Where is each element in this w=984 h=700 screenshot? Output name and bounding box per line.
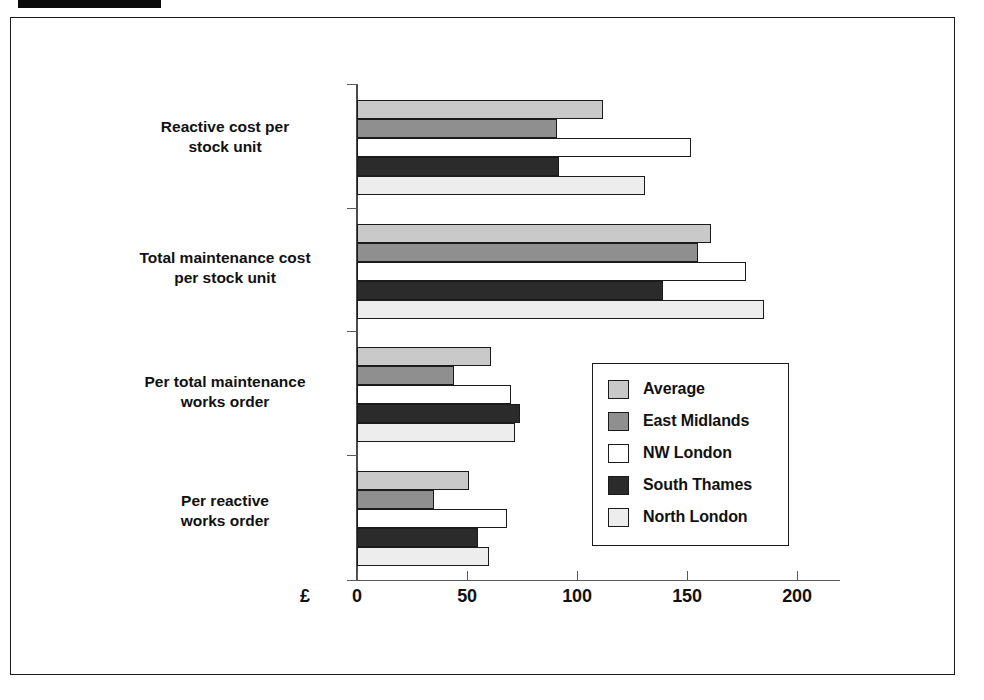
x-tick-label-150: 150	[657, 586, 717, 607]
bar-per-total-maintenance-works-order-average	[357, 347, 491, 366]
category-label-reactive-cost-per-stock-unit: Reactive cost per stock unit	[110, 117, 340, 157]
category-label-line: stock unit	[110, 137, 340, 157]
x-tick-label-200: 200	[767, 586, 827, 607]
y-axis-tick	[347, 331, 358, 332]
legend-label-nw-london: NW London	[643, 444, 732, 462]
x-tick-label-50: 50	[437, 586, 497, 607]
category-label-line: works order	[110, 392, 340, 412]
category-label-per-reactive-works-order: Per reactive works order	[110, 491, 340, 531]
category-label-total-maintenance-cost-per-stock-unit: Total maintenance cost per stock unit	[110, 248, 340, 288]
chart-legend: Average East Midlands NW London South Th…	[592, 363, 789, 546]
y-axis-tick	[347, 455, 358, 456]
legend-swatch-south-thames-icon	[608, 476, 629, 495]
category-label-per-total-maintenance-works-order: Per total maintenance works order	[110, 372, 340, 412]
bar-per-reactive-works-order-east-midlands	[357, 490, 434, 509]
x-axis-tick-200	[797, 571, 798, 581]
x-axis-tick-100	[577, 571, 578, 581]
bar-per-reactive-works-order-nw-london	[357, 509, 507, 528]
bar-per-reactive-works-order-south-thames	[357, 528, 478, 547]
legend-label-south-thames: South Thames	[643, 476, 752, 494]
y-axis-tick	[347, 84, 358, 85]
category-label-line: Total maintenance cost	[110, 248, 340, 268]
bar-reactive-cost-per-stock-unit-north-london	[357, 176, 645, 195]
bar-reactive-cost-per-stock-unit-east-midlands	[357, 119, 557, 138]
legend-swatch-average-icon	[608, 380, 629, 399]
bar-chart-plot-area: £ 0 50 100 150 200 Reactive cost per sto…	[0, 0, 984, 700]
bar-per-total-maintenance-works-order-north-london	[357, 423, 515, 442]
bar-total-maintenance-cost-per-stock-unit-south-thames	[357, 281, 663, 300]
bar-total-maintenance-cost-per-stock-unit-east-midlands	[357, 243, 698, 262]
bar-total-maintenance-cost-per-stock-unit-nw-london	[357, 262, 746, 281]
legend-item-east-midlands[interactable]: East Midlands	[593, 405, 788, 437]
bar-per-total-maintenance-works-order-nw-london	[357, 385, 511, 404]
currency-symbol-label: £	[300, 586, 310, 607]
legend-item-north-london[interactable]: North London	[593, 501, 788, 533]
category-label-line: per stock unit	[110, 268, 340, 288]
x-tick-label-100: 100	[547, 586, 607, 607]
legend-swatch-nw-london-icon	[608, 444, 629, 463]
x-axis-tick-0	[357, 571, 358, 581]
legend-label-north-london: North London	[643, 508, 748, 526]
bar-per-reactive-works-order-average	[357, 471, 469, 490]
x-axis-tick-150	[687, 571, 688, 581]
x-axis-tick-50	[467, 571, 468, 581]
bar-per-total-maintenance-works-order-east-midlands	[357, 366, 454, 385]
legend-item-nw-london[interactable]: NW London	[593, 437, 788, 469]
legend-label-average: Average	[643, 380, 705, 398]
category-label-line: Per total maintenance	[110, 372, 340, 392]
bar-reactive-cost-per-stock-unit-south-thames	[357, 157, 559, 176]
legend-item-average[interactable]: Average	[593, 373, 788, 405]
bar-per-total-maintenance-works-order-south-thames	[357, 404, 520, 423]
x-tick-label-0: 0	[327, 586, 387, 607]
bar-total-maintenance-cost-per-stock-unit-north-london	[357, 300, 764, 319]
bar-reactive-cost-per-stock-unit-average	[357, 100, 603, 119]
bar-per-reactive-works-order-north-london	[357, 547, 489, 566]
legend-item-south-thames[interactable]: South Thames	[593, 469, 788, 501]
category-label-line: works order	[110, 511, 340, 531]
y-axis-tick	[347, 208, 358, 209]
legend-swatch-east-midlands-icon	[608, 412, 629, 431]
bar-reactive-cost-per-stock-unit-nw-london	[357, 138, 691, 157]
x-axis-line	[356, 580, 840, 581]
category-label-line: Reactive cost per	[110, 117, 340, 137]
bar-total-maintenance-cost-per-stock-unit-average	[357, 224, 711, 243]
category-label-line: Per reactive	[110, 491, 340, 511]
legend-label-east-midlands: East Midlands	[643, 412, 749, 430]
legend-swatch-north-london-icon	[608, 508, 629, 527]
